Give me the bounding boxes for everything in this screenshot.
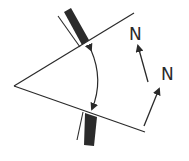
north-arrow-2 bbox=[144, 89, 159, 126]
diagram-canvas: N N bbox=[0, 0, 189, 161]
north-label-1: N bbox=[129, 24, 142, 44]
upper-wall-bar bbox=[64, 8, 89, 45]
lower-wall-bar bbox=[84, 113, 97, 146]
north-arrow-1 bbox=[138, 46, 148, 82]
lower-wall-thin-line bbox=[77, 112, 83, 140]
lower-ray bbox=[14, 86, 145, 132]
north-label-2: N bbox=[161, 64, 174, 84]
angle-double-arrow bbox=[91, 50, 98, 109]
upper-wall bbox=[58, 8, 89, 47]
lower-wall bbox=[77, 112, 97, 146]
